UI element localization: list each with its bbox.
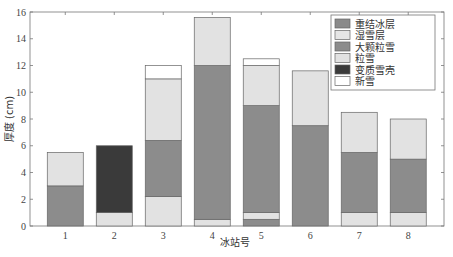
bar-station-5: [243, 59, 279, 226]
bar-segment: [390, 159, 426, 213]
bar-segment: [292, 71, 328, 126]
bar-segment: [145, 79, 181, 141]
bar-station-3: [145, 66, 181, 227]
y-tick-label: 2: [21, 194, 26, 205]
legend-label: 变质雪壳: [355, 64, 395, 76]
bar-segment: [243, 59, 279, 66]
legend: 重结冰层湿雪层大颗粒雪粒雪变质雪壳新雪: [331, 15, 435, 90]
bar-station-1: [47, 152, 83, 226]
bar-segment: [341, 112, 377, 152]
y-tick-label: 12: [16, 60, 26, 71]
bar-segment: [390, 213, 426, 226]
legend-label: 新雪: [355, 75, 375, 87]
x-tick-label: 5: [259, 230, 264, 241]
bar-segment: [292, 126, 328, 226]
bar-segment: [243, 213, 279, 220]
bar-segment: [194, 219, 230, 226]
legend-swatch: [335, 19, 350, 28]
bar-segment: [145, 66, 181, 79]
bar-segment: [194, 17, 230, 65]
x-tick-label: 4: [210, 230, 215, 241]
y-axis-title: 厚度 (cm): [3, 96, 15, 142]
bar-segment: [243, 219, 279, 226]
x-tick-label: 1: [63, 230, 68, 241]
bar-segment: [47, 186, 83, 226]
bar-segment: [243, 106, 279, 213]
legend-swatch: [335, 31, 350, 40]
legend-swatch: [335, 65, 350, 74]
bar-station-4: [194, 17, 230, 226]
bar-station-2: [96, 146, 132, 226]
bar-segment: [96, 146, 132, 213]
y-tick-label: 6: [21, 140, 26, 151]
bar-segment: [47, 152, 83, 185]
legend-swatch: [335, 42, 350, 51]
legend-label: 大颗粒雪: [355, 41, 395, 53]
y-tick-label: 16: [16, 7, 26, 18]
x-tick-label: 8: [406, 230, 411, 241]
stacked-bar-chart: 0246810121416 12345678 冰站号 厚度 (cm) 重结冰层湿…: [0, 0, 453, 257]
legend-label: 湿雪层: [355, 30, 385, 41]
x-tick-label: 3: [161, 230, 166, 241]
x-axis-title: 冰站号: [220, 236, 250, 248]
legend-swatch: [335, 54, 350, 63]
bar-segment: [96, 213, 132, 226]
bar-station-6: [292, 71, 328, 226]
y-tick-label: 0: [21, 221, 26, 232]
legend-swatch: [335, 77, 350, 86]
x-tick-label: 7: [357, 230, 362, 241]
bar-segment: [145, 140, 181, 196]
legend-label: 重结冰层: [355, 18, 395, 30]
bar-segment: [145, 197, 181, 226]
x-tick-label: 6: [308, 230, 313, 241]
bar-segment: [390, 119, 426, 159]
bar-segment: [194, 66, 230, 220]
bar-segment: [243, 66, 279, 106]
y-tick-label: 14: [16, 33, 26, 44]
bar-station-7: [341, 112, 377, 226]
bar-station-8: [390, 119, 426, 226]
legend-label: 粒雪: [355, 52, 375, 64]
y-tick-label: 8: [21, 114, 26, 125]
y-tick-label: 10: [16, 87, 26, 98]
bar-segment: [341, 213, 377, 226]
x-tick-label: 2: [112, 230, 117, 241]
bar-segment: [341, 152, 377, 212]
y-tick-label: 4: [21, 167, 26, 178]
